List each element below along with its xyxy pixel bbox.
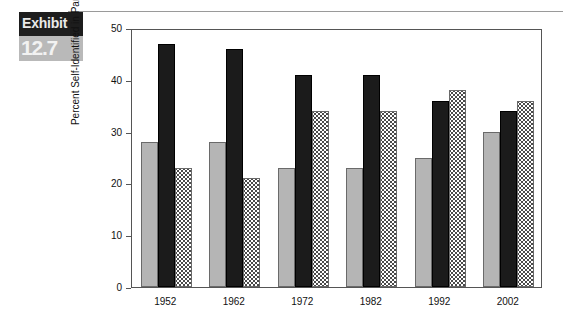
bar-series-dotted-1952: [175, 168, 192, 287]
bar-series-gray-1972: [278, 168, 295, 287]
y-axis-tick-label: 30: [98, 127, 122, 138]
y-axis-title: Percent Self-Identified in Party: [70, 0, 81, 165]
x-axis-tick-label: 1982: [341, 296, 401, 307]
x-axis-tick-label: 1962: [204, 296, 264, 307]
x-axis-tick-label: 1952: [135, 296, 195, 307]
bar-series-dotted-1962: [243, 178, 260, 287]
y-axis-tick-label: 50: [98, 23, 122, 34]
bar-series-gray-2002: [483, 132, 500, 287]
exhibit-figure: Exhibit 12.7 Percent Self-Identified in …: [0, 0, 571, 315]
bar-series-gray-1982: [346, 168, 363, 287]
bar-series-black-1972: [295, 75, 312, 287]
bar-series-gray-1952: [141, 142, 158, 287]
bar-series-black-1992: [432, 101, 449, 287]
y-axis-tick-label: 10: [98, 230, 122, 241]
x-axis-tick-label: 1972: [272, 296, 332, 307]
bar-series-black-1952: [158, 44, 175, 287]
plot-area: [131, 29, 542, 288]
bar-series-dotted-2002: [517, 101, 534, 287]
bar-series-dotted-1992: [449, 90, 466, 287]
bar-series-black-1982: [363, 75, 380, 287]
y-axis-tick-label: 20: [98, 178, 122, 189]
bar-series-dotted-1982: [380, 111, 397, 287]
bar-series-dotted-1972: [312, 111, 329, 287]
bar-series-black-1962: [226, 49, 243, 287]
bar-series-black-2002: [500, 111, 517, 287]
x-axis-tick-label: 1992: [409, 296, 469, 307]
y-axis-tick-label: 0: [98, 282, 122, 293]
y-axis-tick-mark: [126, 288, 131, 289]
bar-series-gray-1962: [209, 142, 226, 287]
y-axis-tick-label: 40: [98, 75, 122, 86]
x-axis-tick-label: 2002: [478, 296, 538, 307]
header-divider: [68, 11, 563, 12]
bar-series-gray-1992: [415, 158, 432, 288]
